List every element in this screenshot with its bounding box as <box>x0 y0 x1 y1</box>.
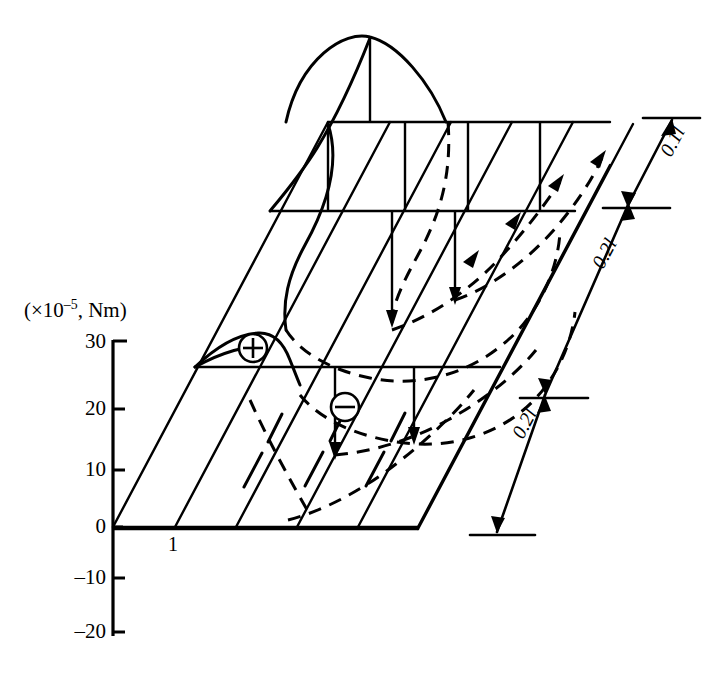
y-axis-tick-label-30: 30 <box>48 331 106 352</box>
arrowhead-down-1 <box>329 442 341 460</box>
arrowhead-rear-2 <box>548 174 564 192</box>
dim-arrow-bottom <box>491 516 505 533</box>
curve-dashed-mid-1 <box>286 232 560 381</box>
marker-negative-group <box>331 393 359 421</box>
dim-arrow-mid-down <box>621 191 636 208</box>
curve-back-descend <box>285 124 333 330</box>
grid-depth-5-right-b <box>418 124 633 529</box>
y-axis-tick-label-10: 10 <box>48 459 106 480</box>
x-axis-tick-label-1: 1 <box>168 534 178 554</box>
baseline-dash-6 <box>391 413 405 441</box>
baseline-dash-2 <box>268 414 282 442</box>
arrowhead-rear-1 <box>590 150 606 168</box>
y-axis-tick-label-0: 0 <box>48 516 106 537</box>
arrowhead-rear-4 <box>463 250 479 268</box>
y-axis-unit-exponent: –5 <box>64 297 78 312</box>
arrowhead-rear-3 <box>505 212 521 230</box>
y-axis-unit-label: (×10–5, Nm) <box>24 298 127 321</box>
axonometric-plot-canvas <box>0 0 721 681</box>
y-axis-tick-label-minus-20: –20 <box>36 621 106 642</box>
y-axis-tick-label-20: 20 <box>48 398 106 419</box>
curve-back-left-rise <box>270 38 370 211</box>
grid-depth-2 <box>236 122 451 527</box>
dim-line-0p2l-upper <box>545 205 628 395</box>
y-axis-unit-suffix: , Nm) <box>78 298 127 322</box>
curve-dashed-back-main <box>392 122 449 330</box>
marker-positive-group <box>239 334 267 362</box>
y-axis-group <box>113 340 127 636</box>
grid-depth-left-0 <box>113 122 328 527</box>
figure-root: (×10–5, Nm) 30 20 10 0 –10 –20 1 0.1l 0.… <box>0 0 721 681</box>
dashed-profile-curves-group <box>250 122 602 520</box>
y-axis-unit-prefix: (×10 <box>24 298 64 322</box>
dimension-lines-group <box>470 118 700 535</box>
y-axis-tick-label-minus-10: –10 <box>36 567 106 588</box>
